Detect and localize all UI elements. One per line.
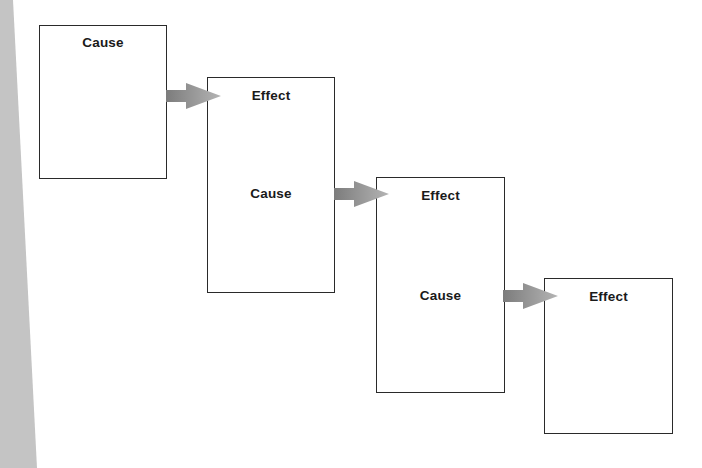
arrow-shape (166, 83, 221, 109)
arrow-right-icon (334, 181, 390, 207)
effect-cause-box-3: Effect Cause (376, 177, 505, 393)
cause-label: Cause (208, 186, 334, 201)
side-strip-shape (0, 0, 37, 468)
effect-label: Effect (208, 88, 334, 103)
effect-label: Effect (377, 188, 504, 203)
arrow-shape (334, 181, 389, 207)
cause-label: Cause (377, 288, 504, 303)
effect-label: Effect (545, 289, 672, 304)
side-decoration-strip (0, 0, 40, 468)
effect-cause-box-2: Effect Cause (207, 77, 335, 293)
effect-box-4: Effect (544, 278, 673, 434)
cause-box-1: Cause (39, 25, 167, 179)
arrow-shape (503, 283, 558, 309)
arrow-right-icon (166, 83, 222, 109)
cause-label: Cause (40, 35, 166, 50)
arrow-right-icon (503, 283, 559, 309)
